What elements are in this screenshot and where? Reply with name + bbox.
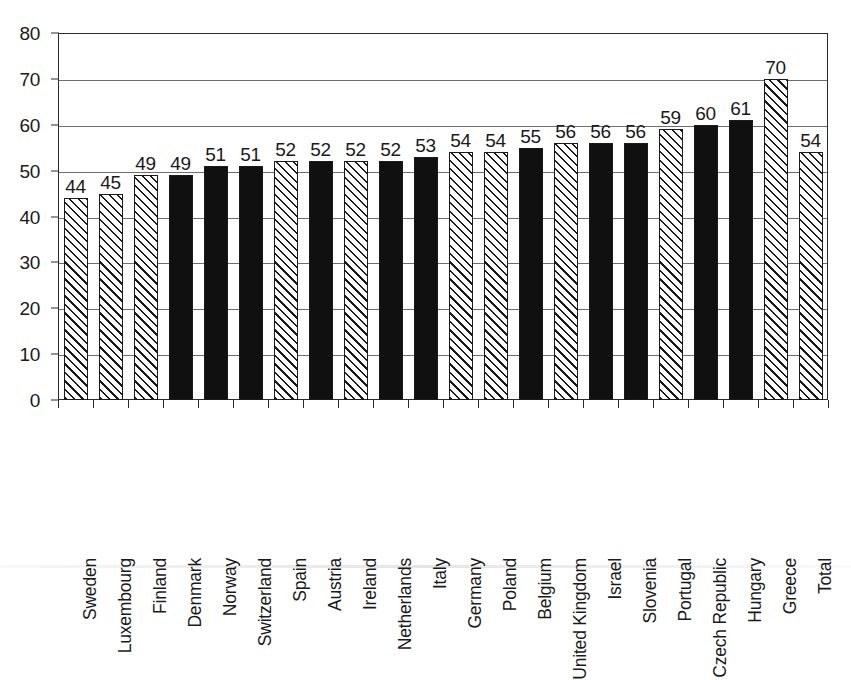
- x-tick-mark: [828, 400, 829, 408]
- y-tick-label: 70: [19, 69, 40, 88]
- x-tick-mark: [618, 400, 619, 408]
- bar-luxembourg[interactable]: 45: [99, 194, 123, 400]
- bar-value-label: 54: [450, 131, 471, 150]
- x-tick-mark: [233, 400, 234, 408]
- bar-value-label: 59: [660, 108, 681, 127]
- bar-value-label: 56: [625, 122, 646, 141]
- x-tick-mark: [758, 400, 759, 408]
- bar-austria[interactable]: 52: [309, 161, 333, 400]
- bar-denmark[interactable]: 49: [169, 175, 193, 400]
- x-tick-mark: [373, 400, 374, 408]
- bar-spain[interactable]: 52: [274, 161, 298, 400]
- bar-value-label: 44: [65, 177, 86, 196]
- x-tick-mark: [408, 400, 409, 408]
- x-label-luxembourg: Luxembourg: [117, 558, 135, 653]
- x-tick-mark: [478, 400, 479, 408]
- bar-value-label: 56: [590, 122, 611, 141]
- bar-value-label: 55: [520, 127, 541, 146]
- bar-finland[interactable]: 49: [134, 175, 158, 400]
- bar-germany[interactable]: 54: [449, 152, 473, 400]
- x-axis-ticks: [58, 400, 828, 408]
- x-tick-mark: [58, 400, 59, 408]
- x-axis-labels: SwedenLuxembourgFinlandDenmarkNorwaySwit…: [58, 410, 828, 568]
- bar-czech-republic[interactable]: 60: [694, 125, 718, 400]
- bar-slovenia[interactable]: 56: [624, 143, 648, 400]
- x-tick-mark: [163, 400, 164, 408]
- bar-value-label: 56: [555, 122, 576, 141]
- bar-value-label: 54: [485, 131, 506, 150]
- x-tick-mark: [128, 400, 129, 408]
- bar-sweden[interactable]: 44: [64, 198, 88, 400]
- bar-total[interactable]: 54: [799, 152, 823, 400]
- bar-value-label: 61: [730, 99, 751, 118]
- bar-value-label: 49: [135, 154, 156, 173]
- bar-value-label: 52: [275, 140, 296, 159]
- x-tick-mark: [198, 400, 199, 408]
- y-tick-label: 30: [19, 253, 40, 272]
- y-tick-label: 0: [30, 391, 40, 410]
- x-tick-mark: [443, 400, 444, 408]
- y-tick-label: 60: [19, 115, 40, 134]
- x-tick-mark: [653, 400, 654, 408]
- bar-poland[interactable]: 54: [484, 152, 508, 400]
- bar-ireland[interactable]: 52: [344, 161, 368, 400]
- bar-switzerland[interactable]: 51: [239, 166, 263, 400]
- x-tick-mark: [688, 400, 689, 408]
- x-label-total: Total: [817, 558, 835, 594]
- bars-layer: 4445494951515252525253545455565656596061…: [58, 33, 828, 400]
- bar-greece[interactable]: 70: [764, 79, 788, 400]
- bar-value-label: 45: [100, 173, 121, 192]
- y-tick-label: 40: [19, 207, 40, 226]
- x-label-united-kingdom: United Kingdom: [572, 558, 590, 680]
- x-label-switzerland: Switzerland: [257, 558, 275, 646]
- y-tick-label: 20: [19, 299, 40, 318]
- x-tick-mark: [93, 400, 94, 408]
- bar-norway[interactable]: 51: [204, 166, 228, 400]
- x-tick-mark: [268, 400, 269, 408]
- bar-value-label: 51: [240, 145, 261, 164]
- y-axis: 01020304050607080: [0, 0, 52, 568]
- bar-belgium[interactable]: 55: [519, 148, 543, 400]
- bar-value-label: 53: [415, 136, 436, 155]
- bar-value-label: 60: [695, 104, 716, 123]
- bar-united-kingdom[interactable]: 56: [554, 143, 578, 400]
- x-label-germany: Germany: [467, 558, 485, 629]
- bar-value-label: 70: [765, 58, 786, 77]
- bar-value-label: 49: [170, 154, 191, 173]
- y-tick-label: 50: [19, 161, 40, 180]
- x-tick-mark: [513, 400, 514, 408]
- x-tick-mark: [723, 400, 724, 408]
- x-tick-mark: [793, 400, 794, 408]
- y-tick-label: 80: [19, 24, 40, 43]
- bar-netherlands[interactable]: 52: [379, 161, 403, 400]
- x-label-netherlands: Netherlands: [397, 558, 415, 650]
- x-label-czech-republic: Czech Republic: [712, 558, 730, 678]
- x-tick-mark: [583, 400, 584, 408]
- x-tick-mark: [303, 400, 304, 408]
- bar-value-label: 54: [800, 131, 821, 150]
- bar-value-label: 52: [345, 140, 366, 159]
- bar-value-label: 51: [205, 145, 226, 164]
- x-label-italy: Italy: [432, 558, 450, 589]
- x-label-denmark: Denmark: [187, 558, 205, 628]
- x-tick-mark: [338, 400, 339, 408]
- x-tick-mark: [548, 400, 549, 408]
- y-tick-label: 10: [19, 345, 40, 364]
- bar-hungary[interactable]: 61: [729, 120, 753, 400]
- scan-edge-artifact: [0, 565, 851, 568]
- bar-italy[interactable]: 53: [414, 157, 438, 400]
- bar-value-label: 52: [380, 140, 401, 159]
- bar-israel[interactable]: 56: [589, 143, 613, 400]
- bar-portugal[interactable]: 59: [659, 129, 683, 400]
- bar-value-label: 52: [310, 140, 331, 159]
